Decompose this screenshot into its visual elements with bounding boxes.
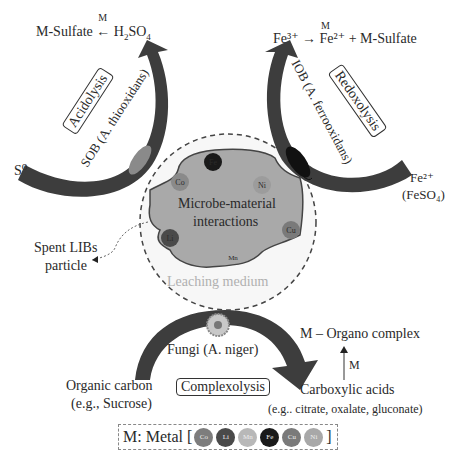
fungi-organism-label: Fungi (A. niger): [167, 342, 258, 358]
legend-metal-ni: Ni: [304, 428, 323, 447]
svg-text:Ni: Ni: [258, 181, 267, 190]
complexolysis-title: Complexolysis: [176, 378, 270, 396]
svg-text:Li: Li: [166, 234, 174, 243]
particle-label-line1: Spent LIBs: [34, 240, 97, 256]
svg-text:Co: Co: [175, 178, 184, 187]
metal-fe-label: Fe: [209, 158, 217, 167]
complex-arrow-label: M: [349, 358, 360, 373]
complexolysis-product-examples: (e.g.. citrate, oxalate, gluconate): [268, 402, 423, 417]
legend-metal-cu: Cu: [282, 428, 301, 447]
acidolysis-substrate: S⁰: [14, 162, 27, 179]
center-title-line1: Microbe-material: [178, 196, 276, 212]
acidolysis-reaction: M-Sulfate ←M H2SO4: [36, 24, 151, 42]
complexolysis-substrate-line2: (e.g., Sucrose): [71, 396, 152, 412]
redoxolysis-substrate-note: (FeSO₄): [402, 187, 445, 203]
complexolysis-product: Carboxylic acids: [300, 382, 394, 398]
center-title-line2: interactions: [193, 214, 258, 230]
redoxolysis-substrate: Fe²⁺: [410, 170, 434, 186]
acidolysis-arrow: [18, 40, 168, 197]
svg-text:Cu: Cu: [286, 226, 295, 235]
metal-legend: M: Metal [ Co Li Mn Fe Cu Ni ]: [118, 424, 338, 450]
legend-metal-co: Co: [194, 428, 213, 447]
legend-metal-mn: Mn: [238, 428, 257, 447]
redoxolysis-reaction: Fe³⁺ → Fe²⁺ + M-Sulfate M: [273, 30, 417, 47]
legend-close: ]: [326, 428, 331, 446]
legend-metal-li: Li: [216, 428, 235, 447]
metal-mn-label: Mn: [228, 254, 238, 262]
legend-label: M: Metal [: [123, 428, 192, 446]
organo-complex-label: M – Organo complex: [300, 326, 420, 342]
complexolysis-substrate-line1: Organic carbon: [66, 378, 152, 394]
leaching-medium-label: Leaching medium: [167, 274, 268, 290]
particle-label-line2: particle: [45, 258, 87, 274]
legend-metal-fe: Fe: [260, 428, 279, 447]
